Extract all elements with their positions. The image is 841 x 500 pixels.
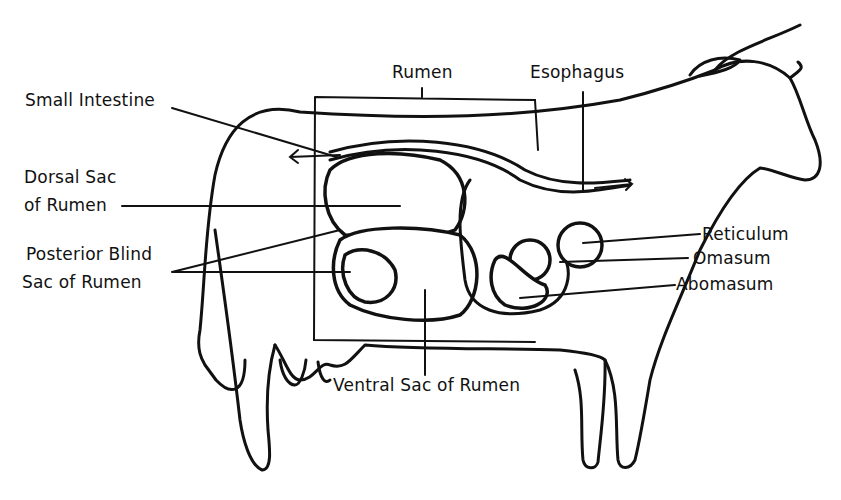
label-omasum: Omasum xyxy=(693,246,771,270)
label-abomasum: Abomasum xyxy=(676,272,774,296)
label-rumen: Rumen xyxy=(392,60,453,84)
label-posterior-blind-sac-line2: Sac of Rumen xyxy=(22,270,142,294)
cow-belly-outline xyxy=(275,345,605,468)
label-reticulum: Reticulum xyxy=(702,222,789,246)
label-small-intestine: Small Intestine xyxy=(25,88,155,112)
label-esophagus: Esophagus xyxy=(530,60,624,84)
label-posterior-blind-sac-line1: Posterior Blind xyxy=(26,242,152,266)
leader-posterior-blind-sac xyxy=(172,230,350,272)
label-ventral-sac: Ventral Sac of Rumen xyxy=(333,373,520,397)
cow-stomach-diagram: Rumen Esophagus Small Intestine Dorsal S… xyxy=(0,0,841,500)
posterior-blind-sac-shape xyxy=(343,250,396,302)
dorsal-sac-shape xyxy=(325,153,465,236)
cow-ear xyxy=(690,58,740,76)
label-dorsal-sac-line1: Dorsal Sac xyxy=(24,165,116,189)
label-dorsal-sac-line2: of Rumen xyxy=(24,193,107,217)
cow-udder xyxy=(280,360,330,385)
